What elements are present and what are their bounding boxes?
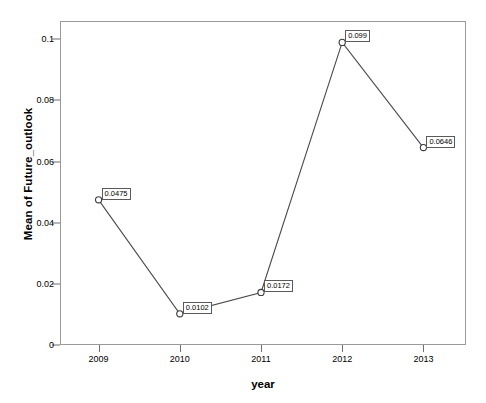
x-axis-title: year [60, 378, 466, 390]
data-point-label: 0.0646 [426, 136, 455, 148]
data-point-label: 0.0102 [183, 302, 212, 314]
line-chart: Mean of Future_outlook 00.020.040.060.08… [0, 0, 486, 403]
data-point-label: 0.0475 [102, 188, 131, 200]
data-point-label: 0.099 [345, 30, 370, 42]
series-layer [0, 0, 486, 403]
series-line [99, 42, 424, 313]
data-point-label: 0.0172 [264, 280, 293, 292]
